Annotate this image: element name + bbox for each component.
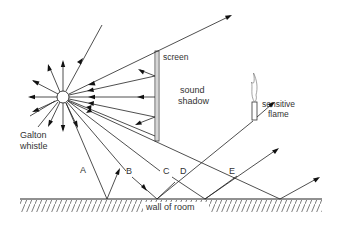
sound-shadow-label-1: sound: [180, 85, 205, 95]
sensitive-flame: sensitive flame: [252, 73, 296, 120]
ray-label-b: B: [126, 166, 132, 176]
ray-label-c: C: [163, 166, 170, 176]
galton-whistle: Galton whistle: [19, 25, 102, 151]
wall-of-room: wall of room: [20, 199, 322, 213]
flame-label-2: flame: [268, 109, 289, 119]
direct-rays: [28, 25, 102, 132]
screen-label: screen: [163, 52, 189, 62]
galton-label-2: whistle: [19, 141, 48, 151]
wall-label: wall of room: [145, 202, 195, 212]
whistle-icon: [57, 91, 69, 103]
sound-shadow-label-2: shadow: [178, 96, 210, 106]
screen-reflection-rays: [68, 15, 280, 199]
sound-reflection-diagram: wall of room screen sound shadow sensiti…: [0, 0, 338, 227]
ray-label-e: E: [229, 166, 235, 176]
flame-label-1: sensitive: [262, 99, 295, 109]
ray-label-a: A: [80, 165, 86, 175]
galton-label-1: Galton: [20, 130, 47, 140]
ray-label-d: D: [180, 166, 187, 176]
